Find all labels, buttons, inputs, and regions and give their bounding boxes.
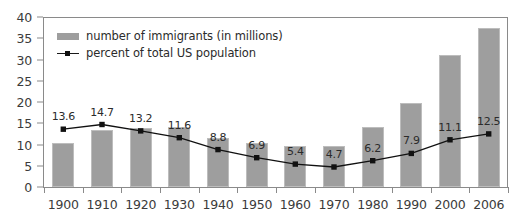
x-tick-mark: [83, 187, 84, 193]
x-tick-mark: [353, 187, 354, 193]
legend-label-immigrants: number of immigrants (in millions): [86, 29, 283, 43]
x-tick-label: 1950: [241, 197, 272, 212]
x-tick-mark: [121, 187, 122, 193]
legend-entry-percent: percent of total US population: [57, 46, 283, 60]
x-tick-mark: [431, 187, 432, 193]
x-tick-label: 1980: [357, 197, 388, 212]
line-marker-icon: [57, 50, 79, 57]
x-tick-mark: [237, 187, 238, 193]
chart-legend: number of immigrants (in millions) perce…: [57, 29, 283, 63]
x-tick-label: 1910: [86, 197, 117, 212]
x-tick-label: 1930: [164, 197, 195, 212]
bar-swatch-icon: [57, 33, 79, 40]
x-tick-label: 2006: [473, 197, 504, 212]
x-tick-label: 1970: [318, 197, 349, 212]
x-tick-label: 1920: [125, 197, 156, 212]
x-tick-mark: [469, 187, 470, 193]
x-tick-mark: [392, 187, 393, 193]
x-tick-mark: [276, 187, 277, 193]
x-tick-label: 2000: [434, 197, 465, 212]
x-tick-mark: [508, 187, 509, 193]
legend-label-percent: percent of total US population: [86, 46, 256, 60]
x-tick-mark: [199, 187, 200, 193]
immigration-chart: 0510152025303540 13.614.713.211.68.86.95…: [0, 0, 520, 215]
x-tick-mark: [315, 187, 316, 193]
x-tick-label: 1940: [202, 197, 233, 212]
legend-entry-immigrants: number of immigrants (in millions): [57, 29, 283, 43]
x-tick-label: 1960: [280, 197, 311, 212]
x-tick-label: 1990: [396, 197, 427, 212]
x-tick-label: 1900: [48, 197, 79, 212]
x-tick-mark: [44, 187, 45, 193]
x-tick-mark: [160, 187, 161, 193]
